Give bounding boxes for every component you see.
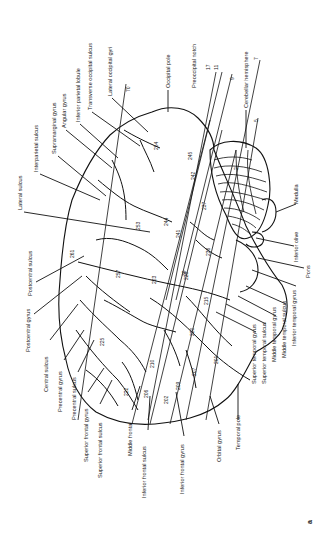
label-supramarginal-gyrus: Supramarginal gyrus (51, 102, 57, 154)
leader-superior-frontal-gyrus (88, 368, 104, 392)
label-cerebellar-hemisphere: Cerebellar hemisphere (243, 51, 249, 108)
label-lateral-occipital-gyri: Lateral occipital gyri (107, 47, 113, 96)
label-middle-frontal: Middle frontal (127, 422, 133, 456)
cut-line-11 (148, 72, 216, 420)
label-interparietal-sulcus: Interparietal sulcus (33, 125, 39, 172)
region-number-242: 242 (190, 171, 196, 180)
region-number-201: 201 (213, 355, 219, 364)
cut-number-17: 17 (205, 64, 211, 70)
region-number-261: 261 (69, 249, 75, 258)
leader-central-sulcus (50, 304, 78, 340)
label-orbital-gyrus: Orbital gyrus (216, 430, 222, 462)
label-superior-frontal-gyrus: Superior frontal gyrus (83, 408, 89, 462)
region-number-244: 244 (163, 217, 169, 226)
label-superior-frontal-sulcus: Superior frontal sulcus (97, 422, 103, 478)
leader-inferior-frontal-gyrus (176, 392, 184, 436)
region-number-207: 207 (191, 367, 197, 376)
leader-precentral-sulcus (78, 340, 94, 372)
cut-line-9 (176, 74, 232, 300)
pons-shape (236, 240, 258, 292)
leader-angular-gyrus (66, 130, 112, 168)
label-inferior-frontal-sulcus: Inferior frontal sulcus (141, 446, 147, 498)
region-number-225: 225 (99, 337, 105, 346)
label-inferior-temporal-gyrus-right: Inferior temporal gyrus (291, 290, 297, 346)
label-pons: Pons (305, 265, 311, 278)
label-preoccipital-notch: Preoccipital notch (191, 44, 197, 88)
region-number-220: 220 (189, 327, 195, 336)
region-number-245: 245 (187, 151, 193, 160)
label-precentral-sulcus: Precentral sulcus (71, 377, 77, 420)
leader-supramarginal-gyrus (58, 156, 106, 196)
medulla-shape (262, 199, 276, 232)
region-number-206: 206 (143, 389, 149, 398)
leader-lateral-sulcus (24, 212, 150, 232)
leader-inferior-parietal-lobule (80, 124, 118, 158)
leader-interparietal-sulcus (40, 174, 100, 200)
label-lateral-sulcus: Lateral sulcus (17, 175, 23, 210)
label-inferior-frontal-gyrus: Inferior frontal gyrus (179, 444, 185, 494)
cut-number-7: 7 (253, 57, 259, 60)
misc-sulcus-3 (164, 330, 196, 388)
misc-sulcus-1 (96, 238, 168, 270)
label-postcentral-gyrus: Postcentral gyrus (25, 309, 31, 352)
region-number-209: 209 (175, 381, 181, 390)
leader-medulla (276, 204, 296, 212)
misc-sulcus-2 (104, 300, 176, 332)
leader-precentral-gyrus (64, 330, 84, 360)
region-number-215: 215 (203, 296, 209, 305)
occipital-sulcus-line (124, 130, 160, 172)
label-central-sulcus: Central sulcus (43, 356, 49, 392)
postcentral-sulcus-line (86, 276, 130, 312)
region-number-202: 202 (163, 395, 169, 404)
label-occipital-pole: Occipital pole (165, 54, 171, 88)
inferior-temporal-sulcus-line (186, 296, 232, 346)
label-inferior-parietal-lobule: Inferior parietal lobule (75, 68, 81, 122)
region-number-222: 222 (123, 387, 129, 396)
label-precentral-gyrus: Precentral gyrus (57, 371, 63, 412)
region-number-257: 257 (115, 269, 121, 278)
sulci (76, 130, 250, 410)
region-number-210: 210 (149, 359, 155, 368)
superior-temporal-sulcus-line (150, 298, 250, 380)
label-middle-temporal-gyrus: Middle temporal gyrus (271, 307, 277, 362)
label-middle-temporal-sulcus: Middle temporal sulcus (281, 301, 287, 358)
label-temporal-pole: Temporal pole (235, 415, 241, 450)
cut-number-11: 11 (213, 65, 219, 70)
panel-label: a (306, 520, 313, 524)
label-postcentral-sulcus: Postcentral sulcus (27, 250, 33, 296)
cut-number-9: 9 (229, 77, 235, 80)
region-number-39: 39 (181, 270, 187, 276)
cut-number-5: 5 (253, 119, 259, 122)
region-number-253: 253 (135, 221, 141, 230)
region-number-241: 241 (175, 229, 181, 238)
label-inferior-olive: Inferior olive (293, 232, 299, 262)
brain-lateral-surface-diagram: Lateral sulcus Interparietal sulcus Supr… (0, 0, 332, 550)
label-angular-gyrus: Angular gyrus (61, 93, 67, 128)
label-superior-temporal-gyrus: Superior temporal gyrus (251, 324, 257, 384)
label-transverse-occipital-sulcus: Transverse occipital sulcus (87, 43, 93, 110)
label-superior-temporal-sulcus: Superior temporal sulcus (261, 322, 267, 384)
region-number-236: 236 (205, 247, 211, 256)
region-number-237: 237 (201, 201, 207, 210)
region-number-223: 223 (151, 275, 157, 284)
leader-superior-temporal-sulcus (226, 304, 266, 324)
region-number-2: 2 (233, 167, 239, 170)
leader-middle-temporal-sulcus (246, 286, 286, 304)
cut-number-70: 70 (125, 86, 131, 92)
cut-band-a (132, 120, 210, 424)
cut-line-70 (78, 84, 126, 420)
region-number-254: 254 (153, 141, 159, 150)
label-medulla: Medulla (293, 184, 299, 204)
leader-inferior-temporal-gyrus (252, 270, 296, 286)
